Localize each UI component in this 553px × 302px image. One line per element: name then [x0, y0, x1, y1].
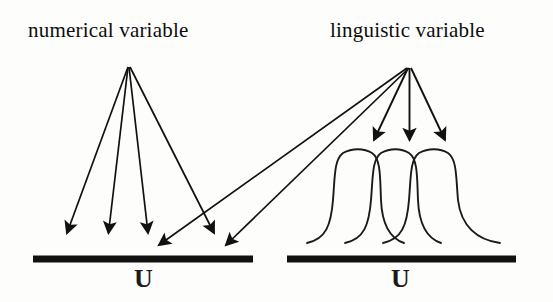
numerical-variable-label: numerical variable: [28, 18, 188, 43]
linguistic-variable-label: linguistic variable: [330, 18, 485, 43]
left-panel-group: [33, 67, 253, 263]
cross-arrow-1: [159, 68, 407, 245]
membership-curve-3: [383, 149, 500, 243]
diagram-svg: [0, 0, 553, 302]
right-universe-bar: [287, 256, 516, 263]
right-universe-label: U: [391, 264, 410, 294]
left-universe-label: U: [134, 264, 153, 294]
cross-arrow-group: [159, 68, 409, 245]
membership-curve-1: [307, 149, 404, 243]
membership-curve-group: [307, 149, 500, 243]
numerical-arrow-group: [67, 67, 214, 233]
linguistic-arrow-3: [411, 68, 445, 140]
numerical-arrow-4: [130, 67, 214, 233]
figure-canvas: numerical variable linguistic variable U…: [0, 0, 553, 302]
membership-curve-2: [345, 149, 441, 243]
linguistic-arrow-group: [374, 68, 445, 140]
left-universe-bar: [33, 256, 253, 263]
right-panel-group: [287, 68, 516, 263]
cross-arrow-2: [226, 68, 409, 245]
numerical-arrow-3: [129, 67, 148, 233]
